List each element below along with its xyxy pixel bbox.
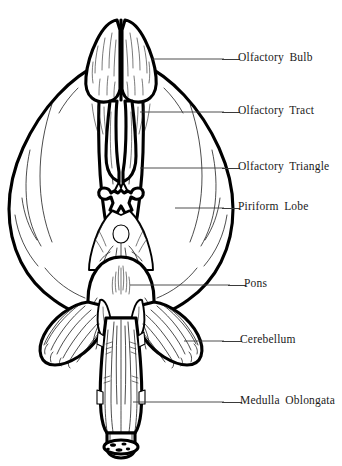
label-olfactory-triangle: Olfactory Triangle: [238, 161, 329, 173]
label-pons: Pons: [244, 278, 267, 290]
figure-canvas: Olfactory Bulb Olfactory Tract Olfactory…: [0, 0, 342, 466]
leader-line-cerebellum: [222, 341, 242, 342]
label-medulla-oblongata: Medulla Oblongata: [240, 395, 335, 407]
label-olfactory-tract: Olfactory Tract: [238, 105, 314, 117]
olfactory-bulb-right: [122, 20, 156, 102]
label-cerebellum: Cerebellum: [240, 334, 296, 346]
leader-line-medulla-oblongata: [222, 402, 242, 403]
medulla-oblongata: [93, 318, 149, 433]
label-olfactory-bulb: Olfactory Bulb: [238, 52, 313, 64]
olfactory-tract-left: [106, 101, 119, 182]
label-piriform-lobe: Piriform Lobe: [238, 201, 309, 213]
spinal-cord-stump: [104, 433, 138, 458]
olfactory-bulb-left: [86, 20, 120, 102]
olfactory-tract-right: [123, 101, 136, 182]
